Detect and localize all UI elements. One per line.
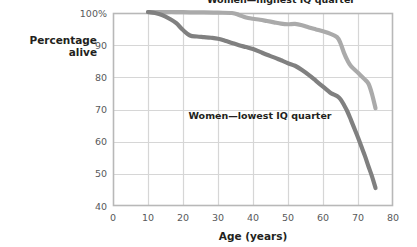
y-tick-label: 60	[95, 136, 107, 147]
chart-figure: 01020304050607080 405060708090100% Women…	[0, 0, 417, 247]
y-tick-label: 70	[95, 104, 107, 115]
series-annotation-1: Women—lowest IQ quarter	[188, 110, 331, 121]
x-tick-label: 40	[247, 212, 259, 223]
y-axis-title-line1: Percentage	[29, 34, 97, 46]
x-tick-label: 0	[110, 212, 116, 223]
series-annotation-0: Women—highest IQ quarter	[207, 0, 355, 5]
x-tick-label: 80	[387, 212, 399, 223]
x-tick-label: 70	[352, 212, 364, 223]
y-tick-label: 40	[95, 201, 107, 212]
x-axis-title: Age (years)	[219, 230, 288, 242]
y-tick-label: 50	[95, 168, 107, 179]
y-tick-label: 100%	[80, 8, 107, 19]
y-axis-title-line2: alive	[69, 46, 97, 58]
x-axis-tick-labels: 01020304050607080	[110, 212, 399, 223]
x-tick-label: 10	[142, 212, 154, 223]
x-tick-label: 50	[282, 212, 294, 223]
y-tick-label: 80	[95, 72, 107, 83]
chart-canvas: 01020304050607080 405060708090100% Women…	[0, 0, 417, 247]
x-tick-label: 30	[212, 212, 224, 223]
x-tick-label: 20	[177, 212, 189, 223]
x-tick-label: 60	[317, 212, 329, 223]
